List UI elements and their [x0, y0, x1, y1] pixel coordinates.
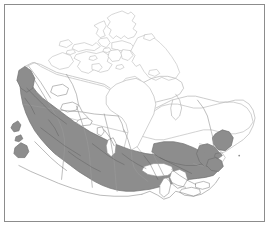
map-border-frame — [4, 4, 265, 222]
ellesmere-island-outline — [107, 11, 137, 39]
lake-ontario — [196, 181, 210, 189]
offshore-dot-a — [238, 155, 240, 157]
canada-map — [5, 5, 264, 221]
victoria-island-outline — [74, 52, 112, 74]
offshore-dot-b — [203, 151, 205, 153]
figure-root — [0, 0, 270, 228]
